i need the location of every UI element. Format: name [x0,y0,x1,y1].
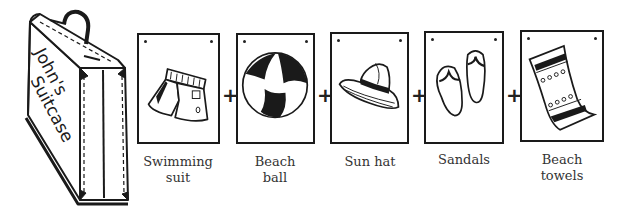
item-card-beach-towels [520,30,604,142]
sun-hat-icon [332,34,407,142]
item-card-swimming-suit [137,33,220,144]
sandals-icon [426,33,502,142]
beach-towel-icon [522,32,602,140]
label-beach-ball: Beach ball [225,154,325,186]
swimming-suit-icon [139,35,218,142]
label-beach-towels: Beach towels [512,152,612,184]
item-card-sun-hat [330,32,409,144]
label-sandals: Sandals [414,152,514,168]
label-swimming-suit: Swimming suit [128,154,228,186]
suitcase-illustration: John's Suitcase [0,0,140,211]
item-card-beach-ball [236,33,315,144]
item-card-sandals [424,31,504,144]
suitcase-icon: John's Suitcase [0,0,140,211]
beach-ball-icon [238,35,313,142]
label-sun-hat: Sun hat [320,154,420,170]
